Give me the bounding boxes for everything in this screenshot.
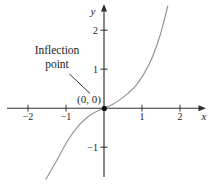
inflection-annotation-line1: Inflection xyxy=(26,44,88,58)
y-tick-label: 1 xyxy=(93,64,98,75)
inflection-point-dot xyxy=(102,106,107,111)
inflection-annotation: Inflection point xyxy=(26,44,88,71)
origin-point-label: (0, 0) xyxy=(72,93,106,105)
x-tick-label: 1 xyxy=(140,111,145,122)
y-axis-arrowhead-icon xyxy=(101,4,107,12)
x-tick-label: 2 xyxy=(178,111,183,122)
x-axis-label: x xyxy=(201,110,207,122)
annotation-leader-line xyxy=(70,74,91,94)
x-tick-label: −1 xyxy=(61,111,72,122)
y-axis-label: y xyxy=(90,5,96,17)
inflection-annotation-line2: point xyxy=(26,58,88,72)
curve-plot: −2−112−112xy xyxy=(0,0,209,184)
cubic-curve xyxy=(46,6,168,179)
x-tick-label: −2 xyxy=(23,111,34,122)
y-tick-label: 2 xyxy=(93,25,98,36)
y-tick-label: −1 xyxy=(87,142,98,153)
inflection-point-figure: −2−112−112xy Inflection point (0, 0) xyxy=(0,0,209,184)
